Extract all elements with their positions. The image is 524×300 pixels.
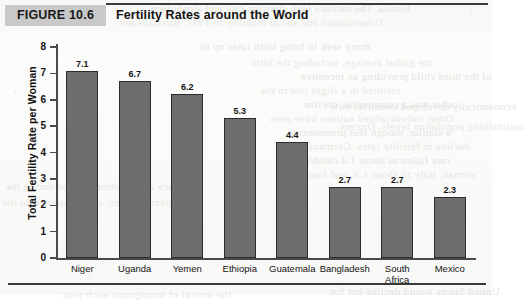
x-axis-category-label: SouthAfrica [367, 263, 427, 285]
y-axis-tick [50, 73, 58, 75]
bar-value-label: 7.1 [62, 59, 102, 69]
bar [276, 142, 308, 258]
category-label-line: Mexico [420, 263, 480, 274]
bar [66, 71, 98, 258]
y-axis-tick-label: 5 [26, 120, 46, 131]
page-title: Fertility Rates around the World [116, 8, 309, 22]
bar-value-label: 2.7 [325, 175, 365, 185]
y-axis-tick [50, 152, 58, 154]
category-label-line: Niger [52, 263, 112, 274]
x-axis-category-label: Ethiopia [210, 263, 270, 274]
y-axis-tick-label: 7 [26, 67, 46, 78]
bar [119, 81, 151, 258]
figure-header: FIGURE 10.6 Fertility Rates around the W… [0, 0, 492, 34]
bar-value-label: 5.3 [220, 106, 260, 116]
x-axis-category-label: Bangladesh [315, 263, 375, 274]
bar-value-label: 2.7 [377, 175, 417, 185]
title-divider-rule [106, 3, 488, 5]
y-axis-tick-label: 4 [26, 147, 46, 158]
y-axis-tick-label: 0 [26, 252, 46, 263]
category-label-line: Guatemala [262, 263, 322, 274]
bleed-line: the arrival of immigrants each year. [60, 288, 231, 300]
y-axis-tick [50, 205, 58, 207]
x-axis-category-label: Guatemala [262, 263, 322, 274]
x-axis-category-label: Yemen [157, 263, 217, 274]
y-axis-tick [50, 99, 58, 101]
bar [224, 118, 256, 258]
bar-value-label: 2.3 [430, 185, 470, 195]
x-axis-line [56, 258, 476, 260]
figure-number-label: FIGURE 10.6 [5, 5, 106, 26]
y-axis-tick [50, 257, 58, 259]
category-label-line: Bangladesh [315, 263, 375, 274]
bar-value-label: 6.7 [115, 69, 155, 79]
category-label-line: Uganda [105, 263, 165, 274]
bar [329, 187, 361, 258]
y-axis-tick-label: 6 [26, 94, 46, 105]
y-axis-tick-label: 2 [26, 199, 46, 210]
category-label-line: Yemen [157, 263, 217, 274]
y-axis-tick-label: 1 [26, 226, 46, 237]
y-axis-tick [50, 46, 58, 48]
category-label-line: Ethiopia [210, 263, 270, 274]
bar [434, 197, 466, 258]
bar-value-label: 4.4 [272, 130, 312, 140]
bar-value-label: 6.2 [167, 82, 207, 92]
x-axis-category-label: Niger [52, 263, 112, 274]
x-axis-category-label: Uganda [105, 263, 165, 274]
bottom-divider-rule [8, 283, 486, 285]
scan-speck [88, 276, 90, 278]
y-axis-tick [50, 125, 58, 127]
y-axis-tick [50, 178, 58, 180]
bar-chart: Total Fertility Rate per Woman 012345678… [0, 34, 492, 274]
y-axis-tick-label: 8 [26, 41, 46, 52]
y-axis-tick-label: 3 [26, 173, 46, 184]
bar [171, 94, 203, 258]
bleed-line: United States would decline but for [330, 285, 500, 297]
bar [381, 187, 413, 258]
x-axis-category-label: Mexico [420, 263, 480, 274]
y-axis-tick [50, 231, 58, 233]
category-label-line: South [367, 263, 427, 274]
